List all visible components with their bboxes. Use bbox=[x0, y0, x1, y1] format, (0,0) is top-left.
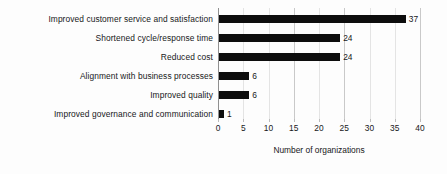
bar-value-label: 6 bbox=[252, 72, 257, 81]
tick-mark-30 bbox=[370, 119, 371, 122]
tick-mark-20 bbox=[319, 119, 320, 122]
value-axis-title: Number of organizations bbox=[218, 145, 420, 155]
tick-mark-0 bbox=[218, 119, 219, 122]
category-label: Shortened cycle/response time bbox=[0, 34, 213, 43]
bar bbox=[219, 72, 249, 80]
bar-value-label: 24 bbox=[343, 53, 352, 62]
tick-label-15: 15 bbox=[289, 124, 298, 133]
gridline-30 bbox=[370, 8, 371, 119]
tick-label-40: 40 bbox=[415, 124, 424, 133]
tick-mark-35 bbox=[395, 119, 396, 122]
gridline-20 bbox=[319, 8, 320, 119]
gridline-15 bbox=[294, 8, 295, 119]
bar bbox=[219, 110, 224, 118]
tick-label-20: 20 bbox=[314, 124, 323, 133]
bar bbox=[219, 91, 249, 99]
gridline-40 bbox=[420, 8, 421, 119]
category-label: Alignment with business processes bbox=[0, 72, 213, 81]
bar-value-label: 24 bbox=[343, 34, 352, 43]
tick-mark-10 bbox=[269, 119, 270, 122]
tick-mark-40 bbox=[420, 119, 421, 122]
tick-label-30: 30 bbox=[365, 124, 374, 133]
gridline-10 bbox=[269, 8, 270, 119]
tick-label-25: 25 bbox=[340, 124, 349, 133]
gridline-25 bbox=[344, 8, 345, 119]
tick-label-35: 35 bbox=[390, 124, 399, 133]
tick-mark-15 bbox=[294, 119, 295, 122]
value-axis-baseline bbox=[218, 8, 219, 119]
category-label: Improved governance and communication bbox=[0, 110, 213, 119]
value-axis: 0510152025303540 bbox=[218, 119, 420, 139]
tick-label-10: 10 bbox=[264, 124, 273, 133]
tick-label-5: 5 bbox=[241, 124, 246, 133]
tick-mark-5 bbox=[243, 119, 244, 122]
bar bbox=[219, 15, 406, 23]
tick-mark-25 bbox=[344, 119, 345, 122]
gridline-35 bbox=[395, 8, 396, 119]
bar-value-label: 37 bbox=[409, 15, 418, 24]
horizontal-bar-chart: Improved customer service and satisfacti… bbox=[0, 0, 447, 174]
category-label: Reduced cost bbox=[0, 53, 213, 62]
plot-area: 372424661 bbox=[218, 8, 420, 119]
bar-value-label: 6 bbox=[252, 91, 257, 100]
category-label: Improved quality bbox=[0, 91, 213, 100]
tick-label-0: 0 bbox=[216, 124, 221, 133]
category-label: Improved customer service and satisfacti… bbox=[0, 15, 213, 24]
category-axis: Improved customer service and satisfacti… bbox=[0, 0, 216, 174]
bar-value-label: 1 bbox=[227, 110, 232, 119]
bar bbox=[219, 53, 340, 61]
bar bbox=[219, 34, 340, 42]
gridline-5 bbox=[243, 8, 244, 119]
